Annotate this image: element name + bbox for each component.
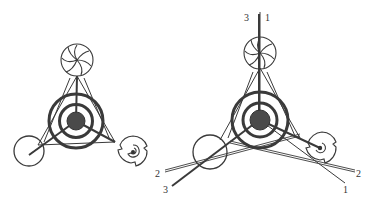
left-diagram [14, 44, 147, 166]
left-plain-wheel [14, 136, 44, 166]
right-diagram [165, 12, 355, 186]
diagram-canvas: 3 1 2 3 2 1 [0, 0, 371, 204]
label-bottom-left-3: 3 [163, 184, 168, 195]
right-plain-wheel [193, 135, 227, 169]
label-top-3: 3 [244, 12, 249, 23]
label-top-1: 1 [265, 12, 270, 23]
left-hub [67, 112, 85, 130]
right-spiral-gear [306, 132, 336, 163]
line-3 [172, 14, 259, 186]
right-hub [250, 110, 270, 130]
label-bottom-right-2: 2 [356, 168, 361, 179]
left-spiral-gear [118, 136, 147, 166]
left-fan-wheel [61, 44, 93, 76]
label-bottom-left-2: 2 [155, 168, 160, 179]
label-bottom-right-1: 1 [343, 184, 348, 195]
